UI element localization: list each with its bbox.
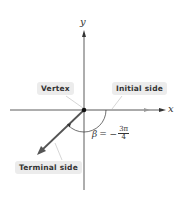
angle-equals: = − [99, 129, 117, 139]
initial-side-label: Initial side [112, 82, 167, 95]
vertex-label: Vertex [37, 82, 74, 95]
angle-symbol: β [92, 129, 97, 139]
terminal-side-ray [42, 110, 84, 150]
initial-side-leader [112, 96, 122, 109]
angle-denominator: 4 [121, 134, 125, 141]
x-axis-arrow-icon [159, 108, 166, 112]
angle-label: β = − 3π 4 [92, 126, 129, 141]
vertex-dot [82, 108, 87, 113]
angle-fraction: 3π 4 [118, 126, 129, 141]
vertex-leader [66, 96, 83, 108]
x-axis-label: x [168, 103, 174, 114]
y-axis-label: y [80, 16, 86, 27]
initial-side-arrow-icon [144, 108, 150, 112]
y-axis-arrow-icon [82, 30, 86, 37]
terminal-side-label: Terminal side [15, 161, 82, 174]
terminal-side-leader [55, 143, 62, 160]
